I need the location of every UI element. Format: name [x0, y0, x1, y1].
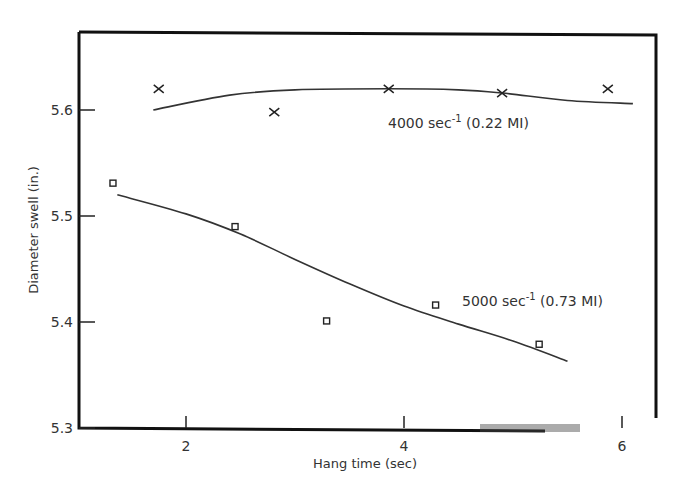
x-marker: [603, 85, 613, 93]
x-axis-title: Hang time (sec): [313, 456, 417, 471]
plot-border: [79, 32, 545, 431]
square-marker: [536, 341, 542, 347]
x-tick-label: 6: [618, 438, 627, 454]
y-axis: 5.35.45.55.6: [51, 102, 95, 436]
y-tick-label: 5.5: [51, 208, 73, 224]
y-axis-title: Diameter swell (in.): [26, 166, 41, 294]
x-tick-label: 4: [400, 438, 409, 454]
x-axis: 246: [182, 416, 627, 454]
x-marker: [269, 108, 279, 116]
y-tick-label: 5.3: [51, 420, 73, 436]
series-label-4000: 4000 sec-1 (0.22 MI): [388, 113, 529, 131]
square-marker: [433, 302, 439, 308]
x-tick-label: 2: [182, 438, 191, 454]
y-tick-label: 5.6: [51, 102, 73, 118]
plot-frame: [79, 32, 656, 432]
chart: 5.35.45.55.6 246 Hang time (sec) Diamete…: [0, 0, 683, 496]
series-label-5000: 5000 sec-1 (0.73 MI): [462, 291, 603, 309]
square-marker: [110, 180, 116, 186]
fit-curve: [117, 195, 567, 361]
square-marker: [232, 224, 238, 230]
fit-curves: [117, 89, 633, 361]
x-marker: [154, 85, 164, 93]
plot-border: [79, 32, 656, 418]
square-marker: [324, 318, 330, 324]
scan-smudge: [480, 424, 580, 432]
y-tick-label: 5.4: [51, 314, 73, 330]
